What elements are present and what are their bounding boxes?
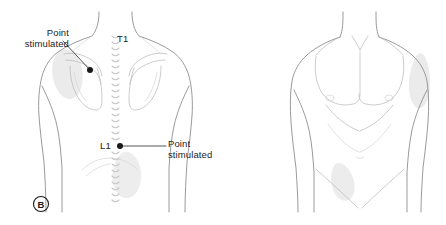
lower-callout-line2: stimulated: [168, 150, 230, 161]
posterior-shaded-regions: [52, 50, 141, 199]
referred-pain-figure: Point stimulated Point stimulated T1 L1 …: [0, 0, 446, 225]
lower-callout-line1: Point: [168, 139, 230, 150]
anterior-shaded-regions: [331, 53, 430, 201]
spinal-level-l1-label: L1: [100, 140, 111, 151]
posterior-scapula-contours: [64, 36, 167, 176]
anterior-body-outline: [290, 12, 428, 212]
lower-point-stimulated-label: Point stimulated: [168, 139, 230, 160]
spinal-level-t1-label: T1: [117, 33, 129, 44]
upper-callout-line2: stimulated: [7, 39, 69, 50]
panel-label-b: B: [33, 196, 49, 212]
anterior-inner-contours: [315, 36, 404, 208]
lumbar-stimulation-dot: [117, 143, 123, 149]
anterior-torso: [290, 12, 430, 212]
scapular-stimulation-dot: [87, 67, 93, 73]
upper-callout-line1: Point: [7, 28, 69, 39]
left-iliac-shading: [331, 163, 355, 201]
upper-point-stimulated-label: Point stimulated: [7, 28, 69, 49]
